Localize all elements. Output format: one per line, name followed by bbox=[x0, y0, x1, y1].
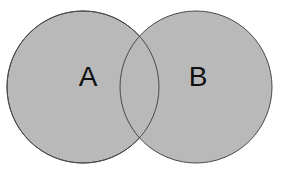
set-a-label: A bbox=[79, 61, 98, 92]
set-b-label: B bbox=[189, 61, 208, 92]
venn-diagram-canvas: A B bbox=[0, 0, 288, 173]
venn-diagram-figure: A B bbox=[0, 0, 288, 173]
